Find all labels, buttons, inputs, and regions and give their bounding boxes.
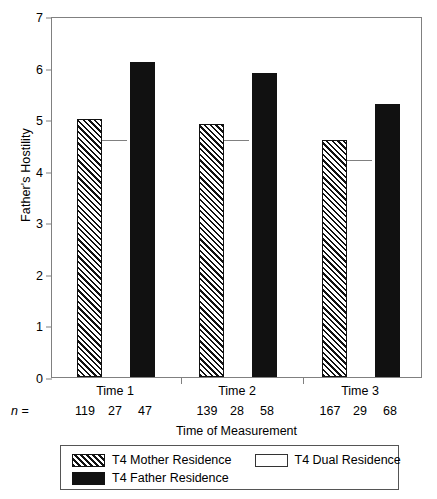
n-row-label: n = xyxy=(11,404,29,418)
n-count-value: 28 xyxy=(224,404,251,418)
bar-father-time-3 xyxy=(375,104,400,377)
y-tick-label: 4 xyxy=(36,166,43,179)
n-count-value: 119 xyxy=(72,404,99,418)
n-count-value: 27 xyxy=(102,404,129,418)
y-tick-label: 5 xyxy=(36,115,43,128)
y-tick-mark xyxy=(46,172,52,173)
x-axis-separator-tick xyxy=(303,377,304,384)
y-tick-mark xyxy=(46,224,52,225)
n-count-value: 167 xyxy=(317,404,344,418)
n-count-group: 1672968 xyxy=(317,404,404,418)
bar-mother-time-1 xyxy=(77,119,102,377)
legend-label-father-residence: T4 Father Residence xyxy=(112,471,229,485)
n-count-group: 1192747 xyxy=(72,404,159,418)
n-symbol: n xyxy=(11,404,18,418)
legend-swatch-mother-residence xyxy=(72,454,105,467)
n-count-value: 47 xyxy=(132,404,159,418)
bar-chart-figure: Father's Hostility 01234567 Time 1119274… xyxy=(0,0,437,499)
legend-row-2: T4 Father Residence xyxy=(72,470,229,486)
chart-legend: T4 Mother Residence T4 Dual Residence T4… xyxy=(60,445,399,490)
n-count-value: 29 xyxy=(347,404,374,418)
x-group-label: Time 2 xyxy=(218,384,256,398)
n-count-value: 58 xyxy=(254,404,281,418)
n-count-value: 139 xyxy=(194,404,221,418)
y-tick-mark xyxy=(46,121,52,122)
y-tick-mark xyxy=(46,379,52,380)
y-tick-label: 6 xyxy=(36,63,43,76)
legend-swatch-father-residence xyxy=(72,472,105,485)
y-tick-label: 2 xyxy=(36,270,43,283)
bar-father-time-1 xyxy=(130,62,155,377)
y-tick-label: 1 xyxy=(36,321,43,334)
y-axis-title: Father's Hostility xyxy=(19,75,33,275)
x-axis-title: Time of Measurement xyxy=(51,424,422,438)
n-count-value: 68 xyxy=(377,404,404,418)
bar-dual-time-1 xyxy=(102,140,127,377)
y-tick-label: 0 xyxy=(36,373,43,386)
n-count-group: 1392858 xyxy=(194,404,281,418)
y-tick-label: 7 xyxy=(36,12,43,25)
bar-dual-time-3 xyxy=(347,160,372,377)
bar-mother-time-2 xyxy=(199,124,224,377)
x-group-label: Time 1 xyxy=(96,384,134,398)
x-group-label: Time 3 xyxy=(341,384,379,398)
bar-mother-time-3 xyxy=(322,140,347,377)
y-tick-mark xyxy=(46,69,52,70)
y-tick-mark xyxy=(46,327,52,328)
bar-dual-time-2 xyxy=(224,140,249,377)
y-tick-mark xyxy=(46,275,52,276)
legend-label-dual-residence: T4 Dual Residence xyxy=(295,453,401,467)
y-tick-mark xyxy=(46,18,52,19)
x-axis-separator-tick xyxy=(181,377,182,384)
y-tick-label: 3 xyxy=(36,218,43,231)
legend-swatch-dual-residence xyxy=(255,454,288,467)
bar-father-time-2 xyxy=(252,73,277,377)
legend-row-1: T4 Mother Residence T4 Dual Residence xyxy=(72,452,401,468)
legend-label-mother-residence: T4 Mother Residence xyxy=(112,453,232,467)
plot-area: 01234567 xyxy=(51,17,422,378)
